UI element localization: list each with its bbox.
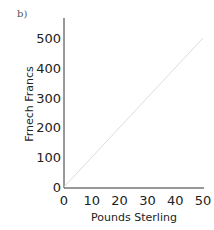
y-tick-label: 500 [36, 31, 61, 46]
x-tick-label: 40 [167, 193, 184, 208]
series-line [64, 38, 203, 187]
x-tick-label: 10 [84, 193, 101, 208]
y-tick-label: 300 [36, 91, 61, 106]
data-line [64, 38, 203, 187]
x-tick-label: 0 [60, 193, 68, 208]
x-tick-label: 50 [195, 193, 212, 208]
y-tick-label: 400 [36, 61, 61, 76]
y-tick-label: 100 [36, 150, 61, 165]
y-tick-label: 200 [36, 120, 61, 135]
y-tick-labels: 0100200300400500 [36, 31, 61, 195]
chart: 0100200300400500 01020304050 Frnech Fran… [0, 0, 214, 230]
x-tick-labels: 01020304050 [60, 193, 211, 208]
x-tick-label: 30 [139, 193, 156, 208]
x-tick-label: 20 [111, 193, 128, 208]
y-axis-label: Frnech Francs [23, 66, 36, 142]
x-axis-label: Pounds Sterling [91, 211, 177, 224]
